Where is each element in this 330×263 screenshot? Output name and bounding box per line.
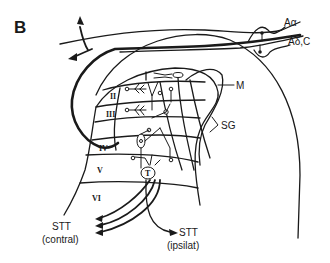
spinal-cord-diagram: B Aα Aδ,C	[0, 0, 330, 263]
lamina-iii-label: III	[106, 110, 115, 119]
radial-line-3	[178, 78, 194, 170]
arrowhead-contral-3-icon	[95, 229, 103, 236]
panel-label: B	[14, 18, 26, 37]
lamina-ii-cell-1	[125, 87, 129, 91]
lamina-ii-dendrite-2	[148, 82, 158, 110]
lamina-ii-cell-3	[169, 87, 173, 91]
lamina-iv-label: IV	[99, 144, 108, 153]
stt-ipsilateral-sublabel: (ipsilat)	[167, 240, 199, 251]
lamina-iii-cell-1	[125, 108, 129, 112]
lamina-iv-nucleus	[140, 140, 143, 143]
lamina-ii-dendrite-1	[129, 84, 146, 93]
lamina-v-label: V	[97, 166, 103, 175]
lamina-boundary-2	[96, 100, 205, 107]
lamina-vi-label: VI	[92, 194, 101, 203]
lamina-boundary-6	[80, 182, 198, 188]
sg-label: SG	[221, 120, 236, 131]
stt-contralateral-sublabel: (contral)	[42, 234, 79, 245]
lamina-ii-label: II	[110, 92, 116, 101]
a-delta-c-label: Aδ,C	[288, 36, 310, 47]
sg-bracket	[210, 117, 218, 132]
lamina-i-neuron	[154, 73, 172, 78]
arrowhead-contral-1-icon	[95, 215, 103, 222]
projection-neuron-label: T	[145, 169, 151, 178]
lamina-i-cell	[173, 73, 183, 78]
lamina-v-terminal-1	[131, 156, 135, 160]
stt-ipsilateral-label: STT	[179, 227, 198, 238]
arrowhead-ipsi-icon	[169, 229, 178, 236]
arrowhead-up-icon	[77, 16, 84, 25]
arrowhead-contral-2-icon	[95, 222, 103, 229]
marginal-label: M	[236, 80, 244, 91]
lamina-iv-cell-3	[169, 158, 173, 162]
lamina-v-dendrites	[135, 155, 160, 165]
lamina-boundary-4	[92, 135, 200, 140]
stt-contralateral-label: STT	[52, 221, 71, 232]
lamina-ii-cell-2	[158, 91, 162, 95]
arrowhead-left-icon	[68, 53, 77, 61]
lamina-iv-dendrites	[141, 128, 170, 168]
lamina-iii-dendrite-1	[129, 105, 146, 115]
a-alpha-label: Aα	[284, 17, 297, 28]
